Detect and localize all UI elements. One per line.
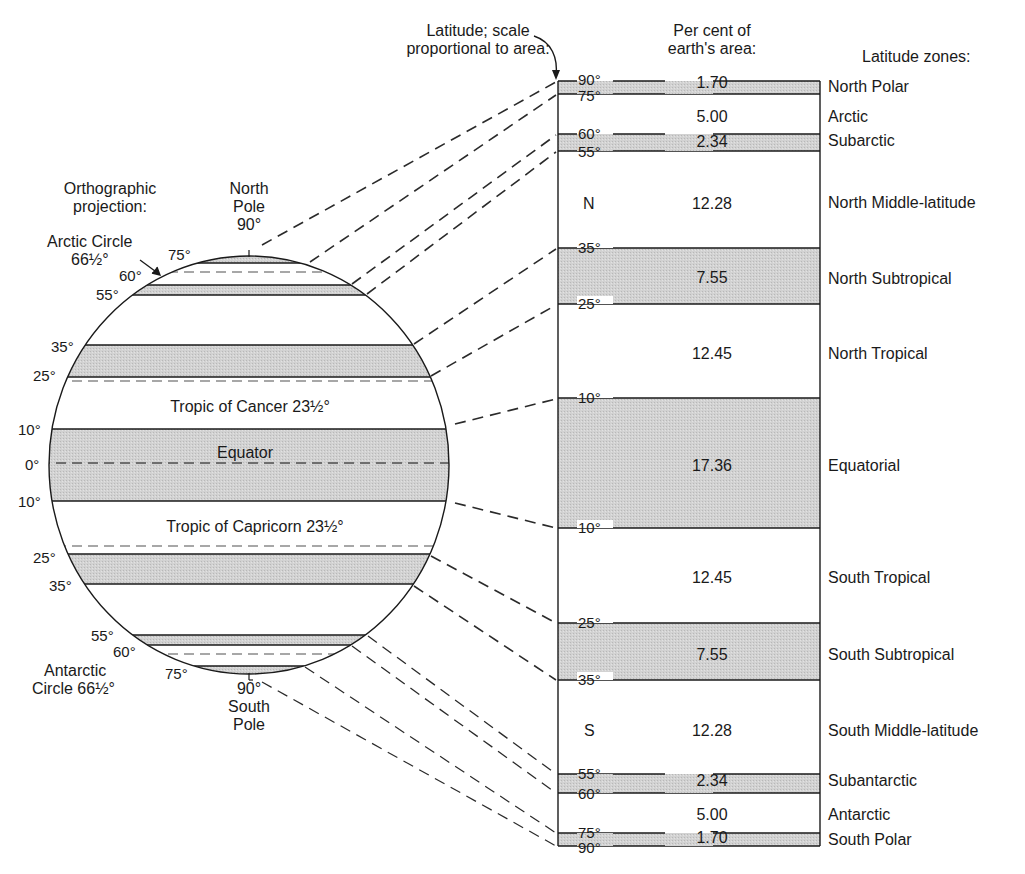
connector-s25	[431, 556, 556, 623]
connector-s55	[368, 636, 556, 774]
bar-deg-s55: 55°	[578, 766, 601, 782]
globe-deg-equator: 0°	[25, 457, 39, 473]
globe-deg-s55: 55°	[91, 628, 114, 644]
bar-deg-n25: 25°	[578, 296, 601, 312]
percent-south-polar: 1.70	[652, 829, 772, 847]
percent-south-middle-latitude: 12.28	[652, 722, 772, 740]
zone-north-polar: North Polar	[828, 78, 909, 96]
zone-south-middle-latitude: South Middle-latitude	[828, 722, 978, 740]
south-pole-label: 90° South Pole	[219, 680, 279, 734]
connector-s35	[414, 586, 556, 680]
percent-area-header: Per cent of earth's area:	[652, 22, 772, 58]
globe-band-north-subtropical	[40, 345, 460, 377]
bar-deg-n90: 90°	[578, 72, 601, 88]
zone-north-tropical: North Tropical	[828, 345, 928, 363]
connector-n75	[310, 95, 556, 262]
globe-deg-n75: 75°	[168, 247, 191, 263]
bar-deg-n10: 10°	[578, 390, 601, 406]
connector-n90	[262, 82, 556, 245]
north-pole-label: North Pole 90°	[219, 180, 279, 234]
tropic-of-cancer-label: Tropic of Cancer 23½°	[140, 398, 360, 416]
percent-north-subtropical: 7.55	[652, 269, 772, 287]
connector-s10	[455, 503, 556, 528]
projection-label: Orthographic projection:	[50, 180, 170, 216]
globe-deg-s10: 10°	[18, 494, 41, 510]
equator-label: Equator	[200, 444, 290, 462]
globe-deg-n55: 55°	[96, 287, 119, 303]
connector-n55	[367, 152, 556, 294]
zone-subarctic: Subarctic	[828, 132, 895, 150]
globe-band-equatorial	[40, 429, 460, 501]
bar-deg-s90: 90°	[578, 840, 601, 856]
globe-deg-s60: 60°	[113, 644, 136, 660]
latitude-zones-header: Latitude zones:	[862, 48, 971, 66]
bar-deg-n35: 35°	[578, 240, 601, 256]
percent-equatorial: 17.36	[652, 457, 772, 475]
bar-deg-s10: 10°	[578, 520, 601, 536]
zone-north-subtropical: North Subtropical	[828, 270, 952, 288]
orthographic-globe	[40, 250, 460, 680]
percent-south-subtropical: 7.55	[652, 646, 772, 664]
arctic-circle-arrow	[140, 260, 160, 275]
zone-south-tropical: South Tropical	[828, 569, 930, 587]
bar-deg-n75: 75°	[578, 88, 601, 104]
globe-shaded-bands	[40, 250, 460, 678]
latitude-scale-header: Latitude; scale proportional to area:	[388, 22, 568, 58]
zone-subantarctic: Subantarctic	[828, 772, 917, 790]
globe-deg-s25: 25°	[33, 550, 56, 566]
globe-deg-s75: 75°	[165, 666, 188, 682]
percent-antarctic: 5.00	[652, 806, 772, 824]
bar-deg-n60: 60°	[578, 126, 601, 142]
antarctic-circle-label: Antarctic Circle 66½°	[32, 662, 115, 698]
percent-north-polar: 1.70	[652, 74, 772, 92]
tropic-of-capricorn-label: Tropic of Capricorn 23½°	[130, 518, 380, 536]
globe-deg-n25: 25°	[33, 368, 56, 384]
percent-north-tropical: 12.45	[652, 345, 772, 363]
percent-subantarctic: 2.34	[652, 772, 772, 790]
zone-equatorial: Equatorial	[828, 457, 900, 475]
bar-deg-s25: 25°	[578, 615, 601, 631]
connector-s90	[262, 682, 556, 846]
globe-deg-s35: 35°	[49, 578, 72, 594]
zone-south-polar: South Polar	[828, 831, 912, 849]
connector-s75	[305, 667, 556, 833]
connector-n35	[414, 249, 556, 344]
connector-n25	[431, 305, 556, 376]
globe-band-south-subtropical	[40, 554, 460, 584]
percent-north-middle-latitude: 12.28	[652, 195, 772, 213]
zone-south-subtropical: South Subtropical	[828, 646, 954, 664]
bar-deg-s35: 35°	[578, 672, 601, 688]
percent-arctic: 5.00	[652, 108, 772, 126]
globe-deg-n10: 10°	[18, 422, 41, 438]
bar-deg-s60: 60°	[578, 786, 601, 802]
zone-antarctic: Antarctic	[828, 806, 890, 824]
percent-south-tropical: 12.45	[652, 569, 772, 587]
connector-s60	[352, 646, 556, 793]
arctic-circle-label: Arctic Circle 66½°	[47, 233, 132, 269]
zone-north-middle-latitude: North Middle-latitude	[828, 194, 976, 212]
connector-n10	[455, 399, 556, 424]
globe-deg-n35: 35°	[51, 339, 74, 355]
bar-deg-n55: 55°	[578, 144, 601, 160]
hemisphere-n-label: N	[583, 195, 595, 213]
connector-n60	[352, 135, 556, 284]
globe-deg-n60: 60°	[119, 268, 142, 284]
percent-subarctic: 2.34	[652, 133, 772, 151]
zone-arctic: Arctic	[828, 108, 868, 126]
hemisphere-s-label: S	[584, 722, 595, 740]
